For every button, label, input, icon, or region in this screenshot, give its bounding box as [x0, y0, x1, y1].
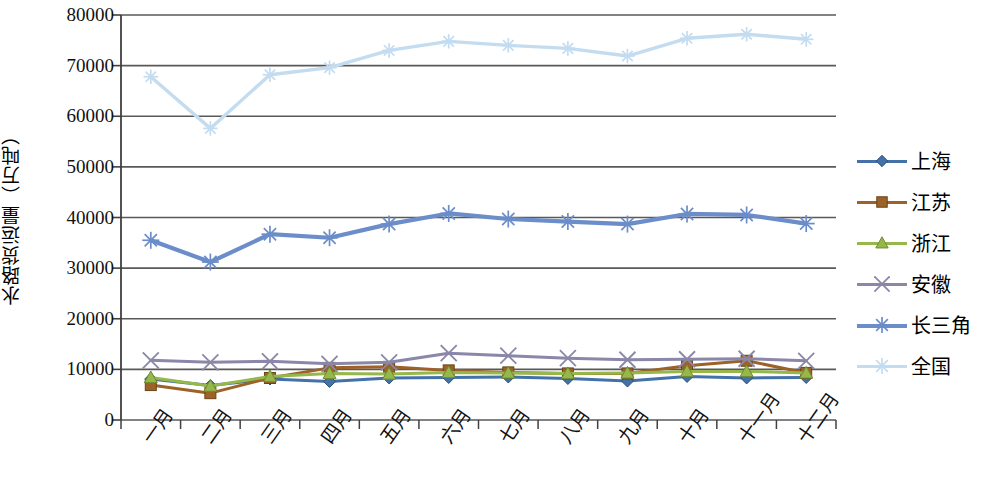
- y-axis-tick-label: 40000: [34, 208, 114, 227]
- legend-asterisk-icon: [874, 317, 890, 333]
- y-axis-tick-label: 30000: [34, 258, 114, 277]
- series-line: [151, 353, 806, 364]
- series-layer: [142, 27, 814, 399]
- series-line: [151, 34, 806, 128]
- chart-legend: 上海江苏浙江安徽长三角全国: [857, 140, 985, 386]
- legend-item-全国[interactable]: 全国: [857, 345, 985, 386]
- plot-area: [0, 0, 985, 484]
- legend-swatch: [857, 232, 907, 254]
- legend-label: 长三角: [907, 310, 971, 339]
- legend-label: 浙江: [907, 228, 951, 257]
- legend-label: 江苏: [907, 187, 951, 216]
- legend-triangle-icon: [874, 235, 890, 251]
- y-axis-tick-label: 50000: [34, 157, 114, 176]
- legend-label: 上海: [907, 146, 951, 175]
- y-axis-tick-label: 20000: [34, 309, 114, 328]
- legend-item-安徽[interactable]: 安徽: [857, 263, 985, 304]
- y-axis-tick-label: 10000: [34, 359, 114, 378]
- legend-item-江苏[interactable]: 江苏: [857, 181, 985, 222]
- y-axis-tick-label: 0: [34, 410, 114, 429]
- legend-swatch: [857, 355, 907, 377]
- legend-item-浙江[interactable]: 浙江: [857, 222, 985, 263]
- y-axis-tick-label: 60000: [34, 106, 114, 125]
- series-长三角: [142, 205, 814, 271]
- legend-item-长三角[interactable]: 长三角: [857, 304, 985, 345]
- legend-swatch: [857, 314, 907, 336]
- legend-swatch: [857, 191, 907, 213]
- y-axis-tick-label: 70000: [34, 56, 114, 75]
- diamond-marker: [876, 155, 887, 166]
- y-axis-tick-label: 80000: [34, 5, 114, 24]
- y-axis-title: 水路货运量（万吨）: [2, 125, 32, 305]
- legend-label: 安徽: [907, 269, 951, 298]
- triangle-marker: [876, 236, 888, 247]
- legend-swatch: [857, 150, 907, 172]
- legend-item-上海[interactable]: 上海: [857, 140, 985, 181]
- series-line: [151, 213, 806, 262]
- water-freight-volume-line-chart: 水路货运量（万吨） 010000200003000040000500006000…: [0, 0, 985, 484]
- legend-swatch: [857, 273, 907, 295]
- square-marker: [877, 196, 887, 206]
- legend-square-icon: [874, 194, 890, 210]
- legend-asterisk-icon: [874, 358, 890, 374]
- series-全国: [144, 27, 814, 136]
- legend-diamond-icon: [874, 153, 890, 169]
- series-安徽: [143, 345, 814, 372]
- legend-cross-icon: [874, 276, 890, 292]
- legend-label: 全国: [907, 351, 951, 380]
